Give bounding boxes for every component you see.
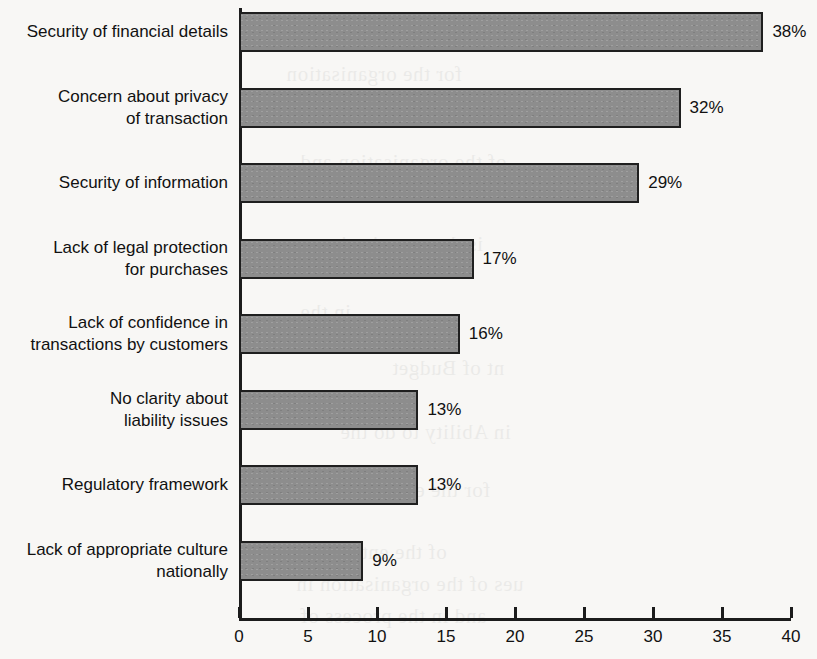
horizontal-bar-chart: Security of financial detailsConcern abo… <box>0 0 817 659</box>
bar-row: 13% <box>239 465 791 505</box>
bar-row: 29% <box>239 163 791 203</box>
x-axis-tick <box>652 607 655 618</box>
x-axis-tick <box>238 607 241 618</box>
category-label: Security of information <box>59 172 228 194</box>
category-label: Regulatory framework <box>62 474 228 496</box>
x-axis-tick-label: 40 <box>782 627 801 647</box>
category-label: Lack of appropriate culture nationally <box>27 539 228 583</box>
category-label: Concern about privacy of transaction <box>58 86 228 130</box>
category-label: Security of financial details <box>27 21 228 43</box>
x-axis-tick-label: 5 <box>303 627 312 647</box>
bar-value-label: 38% <box>772 23 806 41</box>
bar-row: 38% <box>239 12 791 52</box>
x-axis-tick <box>307 607 310 618</box>
bar <box>239 390 418 430</box>
x-axis-tick-label: 15 <box>437 627 456 647</box>
x-axis-tick-label: 30 <box>644 627 663 647</box>
bar-row: 13% <box>239 390 791 430</box>
plot-area: 0510152025303540 38%32%29%17%16%13%13%9% <box>239 0 791 621</box>
bar-value-label: 13% <box>427 476 461 494</box>
bar <box>239 465 418 505</box>
x-axis-tick <box>514 607 517 618</box>
x-axis-tick <box>790 607 793 618</box>
category-label: Lack of legal protection for purchases <box>53 237 228 281</box>
x-axis-tick <box>376 607 379 618</box>
x-axis-tick-label: 25 <box>575 627 594 647</box>
bar-row: 9% <box>239 541 791 581</box>
x-axis-tick <box>445 607 448 618</box>
category-label: Lack of confidence in transactions by cu… <box>31 312 228 356</box>
x-axis-tick-label: 0 <box>234 627 243 647</box>
bar-row: 16% <box>239 314 791 354</box>
x-axis-tick-label: 20 <box>506 627 525 647</box>
bar <box>239 12 763 52</box>
x-axis-line <box>239 618 791 621</box>
bar-value-label: 32% <box>690 99 724 117</box>
x-axis-tick <box>721 607 724 618</box>
bar <box>239 314 460 354</box>
bar-value-label: 29% <box>648 174 682 192</box>
bar <box>239 541 363 581</box>
bar-value-label: 17% <box>483 250 517 268</box>
bar-row: 32% <box>239 88 791 128</box>
x-axis-tick-label: 35 <box>713 627 732 647</box>
bar <box>239 239 474 279</box>
bar <box>239 88 681 128</box>
category-label: No clarity about liability issues <box>110 388 228 432</box>
bar-value-label: 16% <box>469 325 503 343</box>
x-axis-tick-label: 10 <box>368 627 387 647</box>
bar-value-label: 13% <box>427 401 461 419</box>
x-axis-tick <box>583 607 586 618</box>
bar-value-label: 9% <box>372 552 397 570</box>
bar-row: 17% <box>239 239 791 279</box>
bar <box>239 163 639 203</box>
